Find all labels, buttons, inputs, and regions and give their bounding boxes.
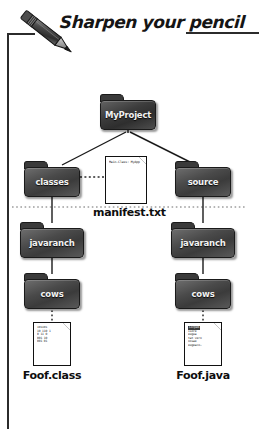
document-caption: Foof.class: [19, 369, 85, 382]
folder-node-myproject[interactable]: MyProject: [100, 94, 156, 130]
document-node-foof-class[interactable]: 101101 10 110 1 0 11 0 001 10 001 01 Foo…: [33, 322, 71, 366]
document-text-preview: Main-Class: MyApp: [109, 160, 143, 164]
folder-body: classes: [24, 167, 80, 197]
folder-label: javaranch: [180, 238, 225, 248]
page-title: Sharpen your pencil: [59, 12, 245, 32]
folder-body: javaranch: [20, 228, 84, 258]
document-page-icon: Main-Class: MyApp: [105, 156, 147, 204]
folder-body: source: [175, 167, 231, 197]
document-text-preview: 101101 10 110 1 0 11 0 001 10 001 01: [37, 326, 67, 344]
document-text-line: Main-Class: MyApp: [109, 160, 143, 164]
document-caption: Foof.java: [170, 369, 236, 382]
folder-label: classes: [35, 177, 68, 187]
folder-label: MyProject: [105, 110, 151, 120]
folder-body: cows: [175, 279, 231, 309]
folder-label: source: [188, 177, 219, 187]
folder-node-javaranch-classes[interactable]: javaranch: [20, 222, 84, 258]
document-page-icon: 101101 10 110 1 0 11 0 001 10 001 01: [33, 322, 71, 366]
folder-label: cows: [41, 289, 64, 299]
document-node-manifest[interactable]: Main-Class: MyApp manifest.txt: [105, 156, 147, 204]
folder-node-javaranch-source[interactable]: javaranch: [171, 222, 235, 258]
folder-node-cows-source[interactable]: cows: [175, 273, 231, 309]
document-page-icon: Lorpem isore eugua tat vero oosae eugeac…: [184, 322, 222, 366]
page-frame-left-rule: [7, 33, 9, 429]
folder-node-classes[interactable]: classes: [24, 161, 80, 197]
document-text-line: eugeaco~: [188, 344, 218, 348]
document-text-preview: Lorpem isore eugua tat vero oosae eugeac…: [188, 326, 218, 348]
document-node-foof-java[interactable]: Lorpem isore eugua tat vero oosae eugeac…: [184, 322, 222, 366]
document-text-line: 001 01: [37, 340, 67, 344]
document-caption: manifest.txt: [93, 206, 159, 219]
folder-body: cows: [24, 279, 80, 309]
folder-label: cows: [192, 289, 215, 299]
folder-label: javaranch: [29, 238, 74, 248]
folder-node-cows-classes[interactable]: cows: [24, 273, 80, 309]
folder-node-source[interactable]: source: [175, 161, 231, 197]
folder-body: MyProject: [100, 100, 156, 130]
folder-body: javaranch: [171, 228, 235, 258]
page-frame-top-right-rule: [186, 32, 259, 34]
